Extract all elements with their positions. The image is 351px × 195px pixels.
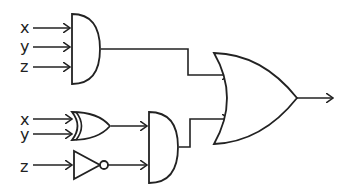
and-gate-top (72, 14, 100, 84)
input-label-y-top: y (20, 37, 29, 56)
not-gate (74, 151, 100, 179)
input-label-z-top: z (20, 57, 28, 76)
not-gate-bubble (100, 161, 108, 169)
and-gate-bottom (149, 112, 178, 183)
or-gate-output (214, 53, 297, 144)
logic-circuit-diagram: x y z x y z (0, 0, 351, 195)
wire-and1-to-or2 (101, 49, 229, 75)
input-label-x-top: x (20, 18, 29, 37)
input-label-y-bottom: y (20, 125, 29, 144)
or-gate-small (72, 112, 110, 140)
input-label-z-bottom: z (20, 157, 28, 176)
